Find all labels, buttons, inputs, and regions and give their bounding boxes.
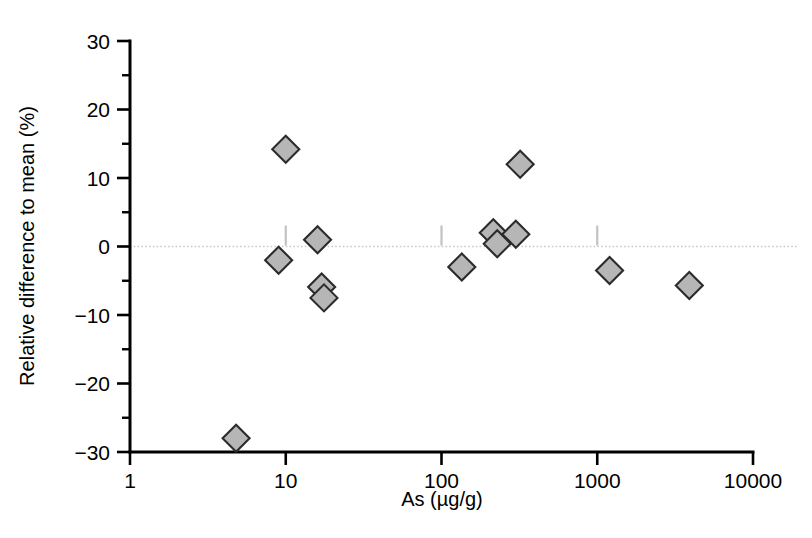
x-tick-label: 10: [274, 469, 297, 492]
y-tick-label: −20: [74, 372, 110, 395]
y-tick-label: −10: [74, 304, 110, 327]
y-axis-title: Relative difference to mean (%): [16, 106, 38, 386]
plot-canvas: 3020100−10−20−30 110100100010000 As (µg/…: [0, 0, 812, 538]
y-tick-label: 30: [87, 30, 110, 53]
plot-background: [0, 0, 812, 538]
x-tick-label: 1: [124, 469, 136, 492]
y-tick-label: 20: [87, 98, 110, 121]
y-tick-label: 0: [98, 235, 110, 258]
x-tick-label: 1000: [574, 469, 621, 492]
y-tick-label: 10: [87, 167, 110, 190]
x-axis-title: As (µg/g): [401, 488, 483, 510]
x-tick-label: 10000: [724, 469, 782, 492]
y-tick-label: −30: [74, 441, 110, 464]
scatter-plot-figure: 3020100−10−20−30 110100100010000 As (µg/…: [0, 0, 812, 538]
